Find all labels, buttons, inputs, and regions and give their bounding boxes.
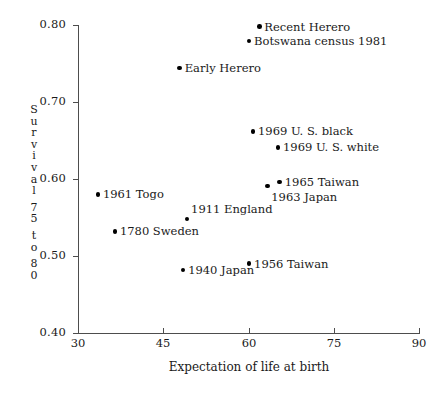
x-tick-label: 60 bbox=[229, 337, 269, 349]
y-tick-mark bbox=[73, 179, 78, 180]
data-point[interactable] bbox=[257, 24, 262, 29]
data-point[interactable] bbox=[185, 217, 190, 222]
y-tick-mark bbox=[73, 333, 78, 334]
x-tick-mark bbox=[334, 328, 335, 333]
data-point-label: 1965 Taiwan bbox=[285, 176, 359, 188]
y-axis-title-char: v bbox=[26, 162, 42, 174]
scatter-plot: 0.80 0.70 0.60 0.50 0.40 30 45 60 75 90 … bbox=[0, 0, 444, 394]
x-tick-label: 30 bbox=[58, 337, 98, 349]
y-axis-title: Survival75to80 bbox=[26, 104, 42, 281]
x-tick-mark bbox=[419, 328, 420, 333]
y-axis-line bbox=[78, 25, 79, 334]
x-tick-mark bbox=[163, 328, 164, 333]
data-point[interactable] bbox=[251, 129, 256, 134]
data-point-label: 1963 Japan bbox=[271, 191, 337, 203]
data-point-label: 1969 U. S. black bbox=[258, 125, 353, 137]
y-axis-title-char: t bbox=[26, 230, 42, 242]
x-axis-line bbox=[78, 333, 420, 334]
data-point-label: Botswana census 1981 bbox=[254, 35, 387, 47]
x-tick-label: 75 bbox=[314, 337, 354, 349]
data-point-label: Early Herero bbox=[185, 62, 261, 74]
data-point-label: 1780 Sweden bbox=[120, 225, 199, 237]
data-point-label: 1969 U. S. white bbox=[283, 141, 379, 153]
x-tick-label: 90 bbox=[399, 337, 439, 349]
data-point-label: 1956 Taiwan bbox=[254, 258, 328, 270]
y-tick-mark bbox=[73, 256, 78, 257]
y-axis-title-char: S bbox=[26, 104, 42, 116]
data-point[interactable] bbox=[247, 39, 252, 44]
data-point[interactable] bbox=[265, 184, 270, 189]
data-point-label: 1961 Togo bbox=[103, 188, 164, 200]
y-tick-mark bbox=[73, 25, 78, 26]
x-tick-label: 45 bbox=[143, 337, 183, 349]
data-point-label: Recent Herero bbox=[264, 21, 350, 33]
data-point[interactable] bbox=[96, 192, 101, 197]
data-point[interactable] bbox=[277, 180, 282, 185]
data-point[interactable] bbox=[181, 268, 186, 273]
data-point[interactable] bbox=[177, 66, 182, 71]
y-axis-title-char: 0 bbox=[26, 270, 42, 282]
data-point-label: 1911 England bbox=[191, 203, 272, 215]
y-axis-title-char: l bbox=[26, 185, 42, 197]
y-axis-title-char: 8 bbox=[26, 258, 42, 270]
y-axis-title-char: o bbox=[26, 242, 42, 254]
x-tick-mark bbox=[78, 328, 79, 333]
y-tick-label: 0.80 bbox=[26, 19, 66, 31]
x-tick-mark bbox=[249, 328, 250, 333]
y-tick-mark bbox=[73, 102, 78, 103]
data-point[interactable] bbox=[113, 229, 118, 234]
data-point[interactable] bbox=[276, 145, 281, 150]
y-axis-title-char: 5 bbox=[26, 213, 42, 225]
data-point-label: 1940 Japan bbox=[188, 264, 254, 276]
x-axis-title: Expectation of life at birth bbox=[78, 360, 420, 374]
